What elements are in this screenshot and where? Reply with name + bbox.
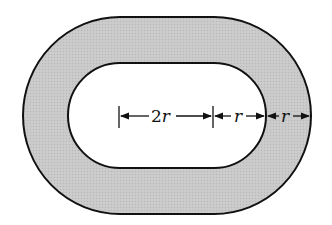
label-2r-coef: 2	[151, 106, 162, 126]
stadium-ring-diagram: 2r r r	[0, 0, 332, 225]
svg-text:2r: 2r	[151, 106, 171, 126]
label-r-inner: r	[234, 106, 243, 126]
label-r-ring: r	[281, 106, 290, 126]
label-2r-var: r	[162, 106, 171, 126]
